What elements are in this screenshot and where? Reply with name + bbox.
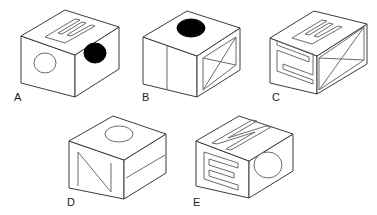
cube-e-right-symbol-circle-open (254, 152, 282, 178)
cube-e-label: E (193, 196, 200, 208)
cube-puzzle-figure: A B (0, 0, 377, 215)
cube-a-right-symbol-circle-filled (84, 43, 106, 63)
cube-a-label: A (14, 91, 22, 103)
cube-b-top-symbol-circle-filled (177, 19, 205, 37)
cube-e: E (193, 116, 293, 208)
cube-c: C (270, 11, 367, 103)
cube-d: D (67, 116, 166, 208)
cube-c-label: C (272, 91, 280, 103)
cube-d-label: D (67, 196, 75, 208)
cube-d-top-symbol-circle-open (105, 126, 133, 142)
cube-b-label: B (142, 91, 149, 103)
cube-b: B (142, 11, 240, 103)
cube-a: A (14, 10, 119, 103)
cube-a-left-symbol-circle-open (34, 53, 56, 73)
puzzle-canvas: A B (0, 0, 377, 215)
